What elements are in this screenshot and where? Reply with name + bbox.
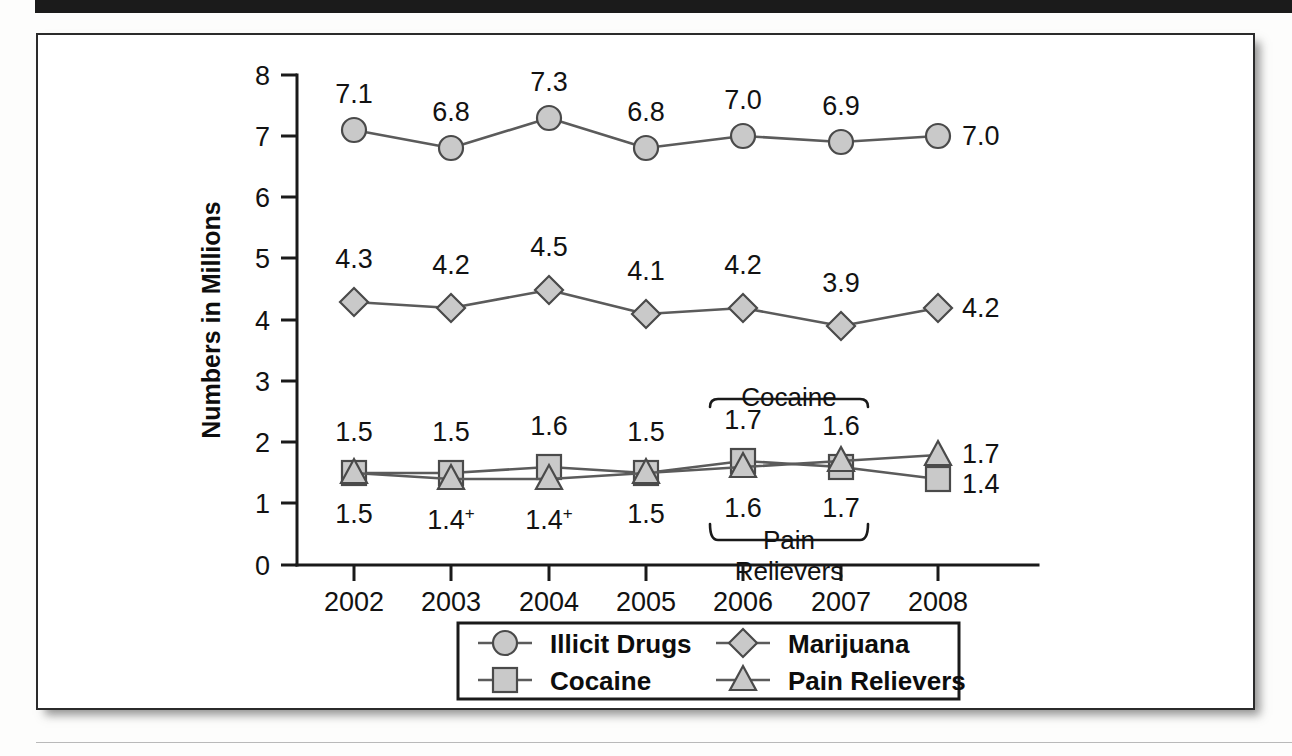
series-cocaine: 1.5 1.5 1.6 1.5 1.7 1.6 1.4	[335, 405, 999, 499]
data-point-marker	[439, 136, 463, 160]
legend-item-marijuana[interactable]: Marijuana	[716, 629, 910, 659]
data-point-marker	[829, 130, 853, 154]
annotation-label-cocaine: Cocaine	[741, 382, 836, 412]
data-point-marker	[535, 276, 563, 304]
data-label-value: 1.5	[627, 499, 665, 529]
y-axis-ticks	[281, 75, 297, 565]
legend-item-cocaine[interactable]: Cocaine	[478, 666, 651, 696]
data-label: 1.7	[962, 439, 1000, 469]
data-label: 1.6	[530, 411, 568, 441]
series-pain-relievers: 1.5 1.4+ 1.4+ 1.5 1.6 1.7 1.7	[335, 439, 999, 535]
series-marijuana: 4.3 4.2 4.5 4.1 4.2 3.9 4.2	[335, 232, 999, 340]
legend-label: Cocaine	[550, 666, 651, 696]
data-label: 7.3	[530, 67, 568, 97]
series-illicit-drugs: 7.1 6.8 7.3 6.8 7.0 6.9 7.0	[335, 67, 999, 160]
data-point-marker	[827, 312, 855, 340]
data-point-marker	[632, 300, 660, 328]
page-bottom-rule	[36, 742, 1292, 743]
data-label: 4.5	[530, 232, 568, 262]
data-label-superscript: +	[465, 504, 475, 523]
data-point-marker	[537, 106, 561, 130]
data-label-value: 1.7	[962, 439, 1000, 469]
data-label: 4.2	[962, 293, 1000, 323]
data-point-marker	[340, 288, 368, 316]
annotation-label-relievers: Relievers	[735, 556, 843, 586]
y-tick-label-7: 7	[255, 122, 270, 152]
square-icon	[493, 668, 517, 692]
x-tick-label-2008: 2008	[908, 587, 968, 617]
y-tick-label-5: 5	[255, 244, 270, 274]
data-point-marker	[924, 294, 952, 322]
x-axis-ticks	[354, 565, 938, 581]
data-label-superscript: +	[563, 504, 573, 523]
data-label-value: 1.6	[724, 493, 762, 523]
data-label: 1.5	[627, 499, 665, 529]
data-label: 1.5	[335, 417, 373, 447]
data-label-value: 1.7	[822, 493, 860, 523]
x-tick-label-2003: 2003	[421, 587, 481, 617]
data-label: 7.0	[962, 121, 1000, 151]
y-tick-label-0: 0	[255, 551, 270, 581]
data-point-marker	[437, 294, 465, 322]
line-chart: 8 7 6 5 4 3 2 1 0 Numbers in Millions 20…	[38, 35, 1257, 712]
annotation-label-pain: Pain	[763, 525, 815, 555]
data-label: 3.9	[822, 268, 860, 298]
y-tick-label-4: 4	[255, 306, 270, 336]
data-label: 7.1	[335, 79, 373, 109]
x-tick-label-2007: 2007	[811, 587, 871, 617]
legend-item-illicit-drugs[interactable]: Illicit Drugs	[478, 629, 692, 659]
legend-label: Marijuana	[788, 629, 910, 659]
data-label: 7.0	[724, 85, 762, 115]
data-label: 6.8	[627, 97, 665, 127]
data-point-marker	[729, 294, 757, 322]
data-point-marker	[926, 124, 950, 148]
legend-label: Illicit Drugs	[550, 629, 692, 659]
y-tick-label-6: 6	[255, 183, 270, 213]
data-label: 4.3	[335, 244, 373, 274]
y-axis: 8 7 6 5 4 3 2 1 0	[255, 61, 297, 581]
x-tick-label-2005: 2005	[616, 587, 676, 617]
y-tick-label-3: 3	[255, 367, 270, 397]
y-tick-label-2: 2	[255, 428, 270, 458]
x-tick-label-2002: 2002	[324, 587, 384, 617]
data-label-value: 1.5	[335, 499, 373, 529]
page-top-dark-bar	[35, 0, 1292, 13]
data-label: 1.7	[822, 493, 860, 523]
data-point-marker	[342, 118, 366, 142]
data-label: 1.4	[962, 469, 1000, 499]
data-label: 1.6	[822, 411, 860, 441]
x-tick-label-2006: 2006	[713, 587, 773, 617]
data-label: 4.1	[627, 256, 665, 286]
y-tick-label-1: 1	[255, 489, 270, 519]
data-label: 1.4+	[525, 504, 573, 535]
data-point-marker	[925, 441, 951, 465]
data-label: 1.5	[627, 417, 665, 447]
figure-frame: 8 7 6 5 4 3 2 1 0 Numbers in Millions 20…	[36, 33, 1255, 710]
data-label-value: 1.4	[525, 505, 563, 535]
data-label: 1.6	[724, 493, 762, 523]
data-point-marker	[926, 467, 950, 491]
annotation-pain-relievers: Pain Relievers	[710, 524, 868, 586]
x-tick-label-2004: 2004	[519, 587, 579, 617]
y-axis-title: Numbers in Millions	[197, 201, 225, 439]
data-label: 6.8	[432, 97, 470, 127]
data-label: 1.4+	[427, 504, 475, 535]
data-point-marker	[731, 124, 755, 148]
chart-legend: Illicit Drugs Marijuana Cocaine Pain Rel…	[458, 623, 966, 699]
x-axis: 2002 2003 2004 2005 2006 2007 2008	[297, 565, 1038, 617]
data-label: 6.9	[822, 91, 860, 121]
data-label: 1.5	[335, 499, 373, 529]
legend-label: Pain Relievers	[788, 666, 966, 696]
data-point-marker	[634, 136, 658, 160]
data-label-value: 1.4	[427, 505, 465, 535]
data-label: 4.2	[724, 250, 762, 280]
y-tick-label-8: 8	[255, 61, 270, 91]
data-label: 1.5	[432, 417, 470, 447]
circle-icon	[493, 631, 517, 655]
data-label: 4.2	[432, 250, 470, 280]
